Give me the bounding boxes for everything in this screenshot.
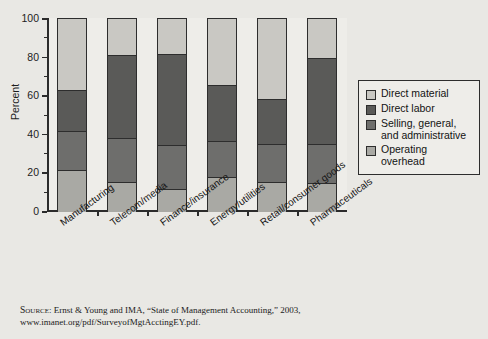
legend-label-line1: Selling, general, [381,117,456,129]
y-tick [42,172,47,174]
y-tick-label: 40 [5,129,39,139]
figure: Percent 020406080100 ManufacturingTeleco… [0,0,488,339]
legend-swatch-sga [366,120,376,130]
plot-area: Percent 020406080100 [47,18,347,211]
source-prefix: Source [20,305,49,315]
y-axis-line [47,18,49,211]
y-minor-tick [44,115,47,116]
y-tick-label: 0 [5,206,39,216]
bar-segment [108,138,136,182]
bar-segment [158,19,186,54]
legend-label-line2: and administrative [381,129,466,141]
y-minor-tick [44,153,47,154]
y-minor-tick [44,37,47,38]
y-tick-label: 80 [5,52,39,62]
y-tick [42,134,47,136]
y-tick [42,18,47,20]
bar-segment [308,58,336,145]
legend-label: Selling, general,and administrative [381,118,466,141]
bar-segment [258,144,286,182]
legend-label: Direct labor [381,103,435,115]
bar-segment [158,54,186,146]
bar-segment [108,55,136,138]
x-tick [97,211,99,216]
bar-segment [308,19,336,58]
y-tick-label: 20 [5,167,39,177]
y-minor-tick [44,76,47,77]
chart-legend: Direct material Direct labor Selling, ge… [358,80,480,175]
source-line2: www.imanet.org/pdf/SurveyofMgtAcctingEY.… [20,317,201,327]
source-line1: : Ernst & Young and IMA, “State of Manag… [49,305,300,315]
source-note: Source: Ernst & Young and IMA, “State of… [20,305,350,328]
x-tick [297,211,299,216]
legend-label: Direct material [381,88,449,100]
legend-item: Direct labor [366,103,473,115]
bar-segment [58,90,86,131]
y-tick-label: 100 [5,13,39,23]
legend-swatch-direct-material [366,90,376,100]
bar-segment [258,99,286,144]
legend-item: Selling, general,and administrative [366,118,473,141]
bar-segment [58,131,86,170]
bar-segment [208,85,236,141]
legend-swatch-operating-overhead [366,146,376,156]
y-tick [42,211,47,213]
bar-segment [58,19,86,90]
plot-background [47,18,347,211]
y-tick [42,57,47,59]
bar-segment [258,19,286,99]
y-tick [42,95,47,97]
bar-telecom-media [107,18,137,211]
legend-swatch-direct-labor [366,105,376,115]
legend-item: Direct material [366,88,473,100]
y-minor-tick [44,192,47,193]
bar-segment [108,19,136,55]
x-tick [247,211,249,216]
bar-segment [208,19,236,85]
y-tick-label: 60 [5,90,39,100]
x-tick [197,211,199,216]
bar-manufacturing [57,18,87,211]
x-tick [147,211,149,216]
legend-label: Operating overhead [381,144,473,167]
legend-item: Operating overhead [366,144,473,167]
